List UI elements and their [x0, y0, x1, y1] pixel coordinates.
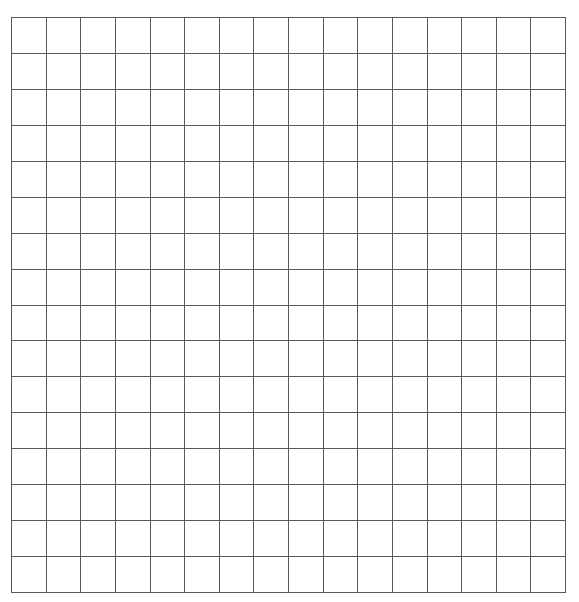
- grid-cell: [462, 90, 497, 126]
- grid-cell: [12, 198, 47, 234]
- grid-cell: [254, 521, 289, 557]
- grid-cell: [151, 377, 186, 413]
- grid-cell: [220, 162, 255, 198]
- grid-cell: [428, 377, 463, 413]
- grid-cell: [289, 162, 324, 198]
- grid-cell: [81, 198, 116, 234]
- grid-cell: [47, 521, 82, 557]
- grid-cell: [185, 449, 220, 485]
- grid-cell: [116, 54, 151, 90]
- grid-cell: [47, 270, 82, 306]
- grid-cell: [116, 90, 151, 126]
- grid-cell: [12, 485, 47, 521]
- grid-cell: [254, 18, 289, 54]
- grid-cell: [289, 306, 324, 342]
- grid-cell: [81, 270, 116, 306]
- grid-cell: [81, 234, 116, 270]
- grid-cell: [358, 306, 393, 342]
- grid-cell: [47, 18, 82, 54]
- grid-cell: [497, 449, 532, 485]
- grid-cell: [289, 54, 324, 90]
- grid-cell: [531, 557, 566, 593]
- grid-cell: [358, 126, 393, 162]
- grid-cell: [47, 54, 82, 90]
- grid-cell: [254, 485, 289, 521]
- grid-cell: [220, 198, 255, 234]
- grid-cell: [324, 126, 359, 162]
- grid-cell: [12, 90, 47, 126]
- grid-cell: [462, 18, 497, 54]
- grid-cell: [289, 557, 324, 593]
- grid-cell: [497, 90, 532, 126]
- grid-cell: [289, 90, 324, 126]
- grid-cell: [324, 198, 359, 234]
- grid-cell: [116, 485, 151, 521]
- grid-cell: [12, 126, 47, 162]
- grid-cell: [81, 341, 116, 377]
- grid-cell: [428, 485, 463, 521]
- grid-cell: [12, 521, 47, 557]
- grid-cell: [116, 521, 151, 557]
- grid-cell: [358, 162, 393, 198]
- grid-cell: [220, 54, 255, 90]
- grid-cell: [358, 341, 393, 377]
- grid-cell: [220, 126, 255, 162]
- grid-cell: [185, 162, 220, 198]
- grid-cell: [497, 341, 532, 377]
- grid-cell: [531, 234, 566, 270]
- grid-cell: [462, 234, 497, 270]
- grid-cell: [185, 234, 220, 270]
- grid-cell: [47, 485, 82, 521]
- grid-cell: [289, 413, 324, 449]
- grid-cell: [393, 449, 428, 485]
- grid-cell: [185, 557, 220, 593]
- grid-cell: [393, 198, 428, 234]
- grid-cell: [254, 557, 289, 593]
- grid-cell: [185, 485, 220, 521]
- grid-cell: [531, 485, 566, 521]
- grid-cell: [81, 449, 116, 485]
- grid-cell: [462, 557, 497, 593]
- grid-cell: [497, 377, 532, 413]
- grid-cell: [324, 341, 359, 377]
- grid-cell: [428, 162, 463, 198]
- grid-cell: [324, 377, 359, 413]
- grid-cell: [428, 341, 463, 377]
- grid-cell: [531, 198, 566, 234]
- grid-cell: [531, 306, 566, 342]
- grid-cell: [151, 18, 186, 54]
- grid-cell: [324, 485, 359, 521]
- grid-cell: [12, 162, 47, 198]
- grid-cell: [289, 18, 324, 54]
- grid-cell: [220, 521, 255, 557]
- grid-cell: [12, 18, 47, 54]
- grid-cell: [12, 341, 47, 377]
- grid-cell: [151, 557, 186, 593]
- grid-cell: [116, 18, 151, 54]
- grid-cell: [428, 90, 463, 126]
- grid-cell: [254, 126, 289, 162]
- grid-cell: [116, 126, 151, 162]
- grid-cell: [531, 18, 566, 54]
- grid-cell: [185, 54, 220, 90]
- grid-cell: [185, 90, 220, 126]
- grid-cell: [151, 341, 186, 377]
- grid-cell: [531, 521, 566, 557]
- grid-cell: [497, 270, 532, 306]
- grid-cell: [254, 198, 289, 234]
- grid-cell: [393, 341, 428, 377]
- grid-cell: [151, 198, 186, 234]
- grid-cell: [289, 485, 324, 521]
- grid-cell: [254, 306, 289, 342]
- grid-cell: [289, 521, 324, 557]
- grid-cell: [151, 270, 186, 306]
- grid-cell: [254, 341, 289, 377]
- grid-cell: [47, 162, 82, 198]
- grid-cell: [116, 162, 151, 198]
- grid-cell: [428, 126, 463, 162]
- grid-cell: [81, 413, 116, 449]
- grid-cell: [462, 377, 497, 413]
- grid-cell: [531, 377, 566, 413]
- grid-cell: [531, 270, 566, 306]
- grid-cell: [289, 198, 324, 234]
